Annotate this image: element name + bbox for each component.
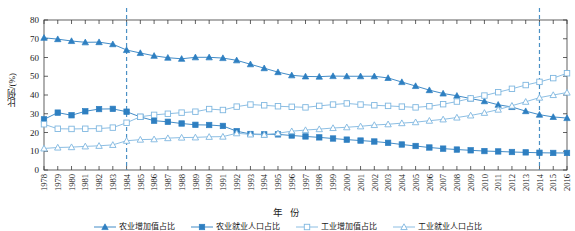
svg-text:2008: 2008 [452,174,462,191]
legend-item: 农业增加值占比 [94,222,175,231]
legend-item-label: 农业就业人口占比 [216,222,280,231]
svg-text:1980: 1980 [67,174,77,191]
svg-text:1991: 1991 [218,174,228,191]
svg-text:1996: 1996 [287,174,297,191]
svg-text:2006: 2006 [425,174,435,191]
legend-item-label: 工业增加值占比 [321,222,377,231]
svg-text:2004: 2004 [397,173,407,191]
chart-plot-area: 0102030405060708019781979198019811982198… [0,0,575,231]
svg-text:40: 40 [30,90,40,100]
svg-text:1988: 1988 [177,174,187,191]
svg-text:1993: 1993 [246,174,256,191]
svg-text:2014: 2014 [535,173,545,191]
svg-text:2001: 2001 [356,174,366,191]
svg-text:2009: 2009 [466,174,476,191]
svg-text:10: 10 [30,146,40,156]
svg-text:1981: 1981 [80,174,90,191]
x-axis-label: 年 份 [0,205,575,219]
svg-text:1983: 1983 [108,174,118,191]
svg-text:70: 70 [30,34,40,44]
chart-figure: 比例/(%) 010203040506070801978197919801981… [0,0,575,231]
legend-item: 工业就业人口占比 [393,222,482,231]
svg-text:2016: 2016 [562,174,572,191]
svg-text:1992: 1992 [232,174,242,191]
series-3 [41,89,570,151]
svg-text:1985: 1985 [136,174,146,191]
svg-text:2010: 2010 [480,174,490,191]
svg-text:1986: 1986 [149,174,159,191]
svg-text:2002: 2002 [370,174,380,191]
svg-text:1997: 1997 [301,174,311,191]
svg-text:2012: 2012 [507,174,517,191]
svg-text:80: 80 [30,15,40,25]
svg-text:2000: 2000 [342,174,352,191]
svg-text:2007: 2007 [438,174,448,191]
svg-text:0: 0 [35,165,40,175]
svg-text:2015: 2015 [548,174,558,191]
svg-text:20: 20 [30,128,40,138]
svg-text:2003: 2003 [383,174,393,191]
chart-legend: 农业增加值占比农业就业人口占比工业增加值占比工业就业人口占比 [0,222,575,231]
svg-text:1989: 1989 [191,174,201,191]
legend-item: 工业增加值占比 [296,222,377,231]
svg-text:1990: 1990 [204,174,214,191]
filled-square-icon [191,223,213,231]
svg-text:1998: 1998 [314,174,324,191]
svg-text:30: 30 [30,109,40,119]
svg-text:1995: 1995 [273,174,283,191]
svg-text:60: 60 [30,53,40,63]
svg-text:2013: 2013 [521,174,531,191]
svg-text:1978: 1978 [39,174,49,191]
series-2 [41,71,569,132]
hollow-square-icon [296,223,318,231]
svg-text:1982: 1982 [94,174,104,191]
svg-text:1984: 1984 [122,173,132,191]
svg-text:50: 50 [30,71,40,81]
svg-text:1994: 1994 [259,173,269,191]
filled-triangle-icon [94,223,116,231]
svg-text:1979: 1979 [53,174,63,191]
legend-item: 农业就业人口占比 [191,222,280,231]
svg-text:1999: 1999 [328,174,338,191]
svg-text:2011: 2011 [493,174,503,191]
legend-item-label: 工业就业人口占比 [418,222,482,231]
legend-item-label: 农业增加值占比 [119,222,175,231]
svg-text:1987: 1987 [163,174,173,191]
hollow-triangle-icon [393,223,415,231]
svg-text:2005: 2005 [411,174,421,191]
